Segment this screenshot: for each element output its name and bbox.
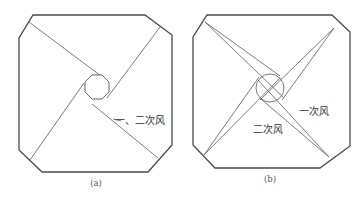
jet-bottom-right-a bbox=[92, 104, 158, 158]
annotation-secondary-air: 二次风 bbox=[253, 123, 283, 135]
jet-primary-bottom-left-b bbox=[204, 78, 280, 155]
figure-canvas: 一、二次风 (a) 一次风 二次风 (b) bbox=[0, 0, 364, 202]
jet-secondary-top-left-b bbox=[205, 22, 280, 76]
jet-primary-bottom-right-b bbox=[258, 80, 329, 157]
jet-top-left-a bbox=[29, 22, 101, 76]
panel-a: 一、二次风 (a) bbox=[19, 15, 172, 188]
jet-primary-top-left-b bbox=[205, 22, 284, 98]
annotation-primary-secondary-air: 一、二次风 bbox=[115, 114, 165, 126]
jet-top-right-a bbox=[107, 27, 160, 98]
panel-b: 一次风 二次风 (b) bbox=[193, 15, 350, 184]
annotation-primary-air: 一次风 bbox=[299, 105, 329, 117]
tangent-octagon-a bbox=[85, 75, 109, 99]
jet-secondary-bottom-left-b bbox=[204, 77, 259, 155]
jet-secondary-top-right-b bbox=[282, 28, 334, 100]
jet-bottom-left-a bbox=[30, 83, 84, 160]
caption-a: (a) bbox=[90, 178, 102, 188]
jet-primary-top-right-b bbox=[260, 28, 334, 100]
caption-b: (b) bbox=[264, 174, 276, 184]
